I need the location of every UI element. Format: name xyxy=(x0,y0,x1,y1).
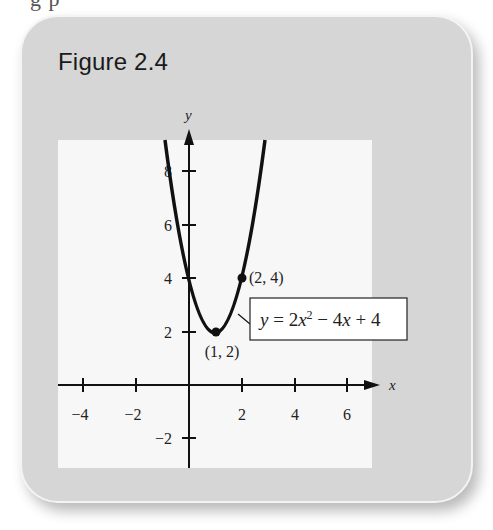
svg-text:−2: −2 xyxy=(155,430,172,447)
y-axis-label: y xyxy=(183,107,192,123)
parabola-chart: x y −4 −2 2 4 6 −2 2 4 6 8 (1, 2) (2, 4)… xyxy=(0,0,493,530)
svg-text:4: 4 xyxy=(291,406,299,423)
svg-text:6: 6 xyxy=(164,217,172,234)
x-axis-label: x xyxy=(388,377,396,393)
point-label-2-4: (2, 4) xyxy=(249,269,284,287)
svg-text:−2: −2 xyxy=(124,406,141,423)
equation-label: y = 2x2 − 4x + 4 xyxy=(258,308,381,330)
vertex-point xyxy=(212,328,221,337)
svg-text:2: 2 xyxy=(238,406,246,423)
svg-text:−4: −4 xyxy=(71,406,88,423)
vertex-label: (1, 2) xyxy=(205,343,240,361)
svg-text:4: 4 xyxy=(164,270,172,287)
svg-text:2: 2 xyxy=(164,324,172,341)
svg-text:6: 6 xyxy=(343,406,351,423)
y-axis-arrow-icon xyxy=(184,129,194,145)
point-2-4 xyxy=(238,274,247,283)
